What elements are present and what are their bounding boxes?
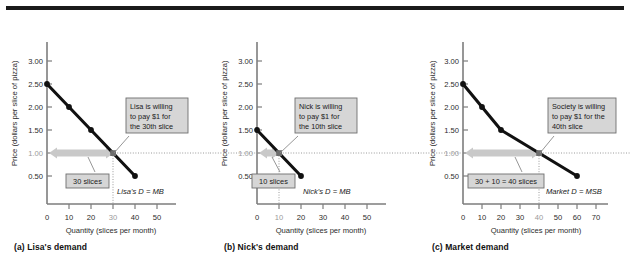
span-label-box-b: 10 slices xyxy=(252,174,295,188)
y-tick-b-4: 2.50 xyxy=(238,80,253,89)
x-tick-b-0: 0 xyxy=(255,213,259,222)
x-tick-c-4: 40 xyxy=(535,213,543,222)
span-label-leader-a xyxy=(88,157,95,172)
x-tick-c-2: 20 xyxy=(497,213,505,222)
callout-leader-c xyxy=(540,136,554,153)
callout-leader-b xyxy=(280,136,298,153)
panel-caption-b: (b) Nick's demand xyxy=(224,242,299,252)
chart-market-demand: Price (dollars per slice of pizza) 3.00 … xyxy=(418,14,628,239)
callout-line-a-2: the 30th slice xyxy=(130,122,173,131)
y-tick-c-2: 1.50 xyxy=(444,126,459,135)
span-label-a: 30 slices xyxy=(73,177,102,186)
callout-line-b-0: Nick is willing xyxy=(299,102,342,111)
callout-line-c-0: Society is willing xyxy=(552,102,605,111)
callout-line-c-2: 40th slice xyxy=(552,122,583,131)
x-ticks-b: 0 10 20 30 40 50 xyxy=(255,204,371,222)
callout-line-a-0: Lisa is willing xyxy=(130,102,173,111)
y-tick-b-1: 1.00 xyxy=(238,149,253,158)
y-tick-c-4: 2.50 xyxy=(444,80,459,89)
chart-lisas-demand: Price (dollars per slice of pizza) 3.00 … xyxy=(0,14,210,239)
callout-line-c-1: to pay $1 for the xyxy=(552,112,605,121)
x-axis-title-a: Quantity (slices per month) xyxy=(66,226,157,235)
x-tick-a-3: 30 xyxy=(109,213,117,222)
chart-nicks-demand: Price (dollars per slice of pizza) 3.00 … xyxy=(210,14,420,239)
y-ticks-c: 3.00 2.50 2.00 1.50 1.00 0.50 xyxy=(444,57,468,181)
x-tick-b-1: 10 xyxy=(275,213,283,222)
figure-top-rule xyxy=(6,6,624,10)
y-tick-b-3: 2.00 xyxy=(238,103,253,112)
y-axis-title-a: Price (dollars per slice of pizza) xyxy=(10,60,19,166)
span-label-c: 30 + 10 = 40 slices xyxy=(475,177,537,186)
x-tick-b-5: 50 xyxy=(363,213,371,222)
curve-label-a: Lisa's D = MB xyxy=(117,187,164,196)
x-tick-c-7: 70 xyxy=(592,213,600,222)
span-label-b: 10 slices xyxy=(259,177,288,186)
callout-box-b: Nick is willing to pay $1 for the 10th s… xyxy=(295,98,357,133)
y-tick-a-2: 1.50 xyxy=(28,126,43,135)
y-tick-a-1: 1.00 xyxy=(28,149,43,158)
x-tick-c-1: 10 xyxy=(478,213,486,222)
x-tick-b-3: 30 xyxy=(319,213,327,222)
x-tick-a-5: 50 xyxy=(153,213,161,222)
quantity-span-arrow-a xyxy=(49,148,114,159)
x-ticks-a: 0 10 20 30 40 50 xyxy=(45,204,161,222)
x-tick-b-2: 20 xyxy=(297,213,305,222)
x-tick-a-1: 10 xyxy=(65,213,73,222)
callout-line-b-1: to pay $1 for xyxy=(299,112,340,121)
y-tick-a-0: 0.50 xyxy=(28,172,43,181)
y-tick-c-3: 2.00 xyxy=(444,103,459,112)
span-label-box-a: 30 slices xyxy=(66,174,109,188)
x-axis-title-b: Quantity (slices per month) xyxy=(276,226,367,235)
y-tick-c-1: 1.00 xyxy=(444,149,459,158)
panel-nicks-demand: Price (dollars per slice of pizza) 3.00 … xyxy=(210,14,420,267)
x-tick-c-0: 0 xyxy=(461,213,465,222)
x-ticks-c: 0 10 20 30 40 50 60 70 xyxy=(461,204,600,222)
x-tick-b-4: 40 xyxy=(341,213,349,222)
x-tick-a-2: 20 xyxy=(87,213,95,222)
span-label-box-c: 30 + 10 = 40 slices xyxy=(468,174,544,188)
x-tick-a-0: 0 xyxy=(45,213,49,222)
callout-line-b-2: the 10th slice xyxy=(299,122,342,131)
panel-lisas-demand: Price (dollars per slice of pizza) 3.00 … xyxy=(0,14,210,267)
y-tick-c-5: 3.00 xyxy=(444,57,459,66)
y-tick-a-4: 2.50 xyxy=(28,80,43,89)
y-axis-title-b: Price (dollars per slice of pizza) xyxy=(220,60,229,166)
y-ticks-b: 3.00 2.50 2.00 1.50 1.00 0.50 xyxy=(238,57,262,181)
curve-label-b: Nick's D = MB xyxy=(303,187,351,196)
span-label-leader-c xyxy=(515,157,522,172)
x-tick-c-5: 50 xyxy=(554,213,562,222)
quantity-span-arrow-c xyxy=(465,148,540,159)
callout-box-a: Lisa is willing to pay $1 for the 30th s… xyxy=(126,98,188,133)
y-tick-b-2: 1.50 xyxy=(238,126,253,135)
callout-line-a-1: to pay $1 for xyxy=(130,112,171,121)
x-tick-c-6: 60 xyxy=(573,213,581,222)
y-tick-b-5: 3.00 xyxy=(238,57,253,66)
y-axis-title-c: Price (dollars per slice of pizza) xyxy=(428,60,437,166)
x-tick-c-3: 30 xyxy=(516,213,524,222)
y-tick-a-3: 2.00 xyxy=(28,103,43,112)
panel-caption-c: (c) Market demand xyxy=(432,242,509,252)
y-tick-c-0: 0.50 xyxy=(444,172,459,181)
span-label-leader-b xyxy=(272,157,280,172)
y-tick-a-5: 3.00 xyxy=(28,57,43,66)
y-ticks-a: 3.00 2.50 2.00 1.50 1.00 0.50 xyxy=(28,57,52,181)
curve-label-c: Market D = MSB xyxy=(546,187,602,196)
y-tick-b-0: 0.50 xyxy=(238,172,253,181)
figure-panels: Price (dollars per slice of pizza) 3.00 … xyxy=(0,14,630,267)
x-axis-title-c: Quantity (slices per month) xyxy=(491,226,582,235)
panel-caption-a: (a) Lisa's demand xyxy=(14,242,87,252)
callout-box-c: Society is willing to pay $1 for the 40t… xyxy=(548,98,616,133)
x-tick-a-4: 40 xyxy=(131,213,139,222)
callout-leader-a xyxy=(114,136,129,153)
panel-market-demand: Price (dollars per slice of pizza) 3.00 … xyxy=(418,14,628,267)
